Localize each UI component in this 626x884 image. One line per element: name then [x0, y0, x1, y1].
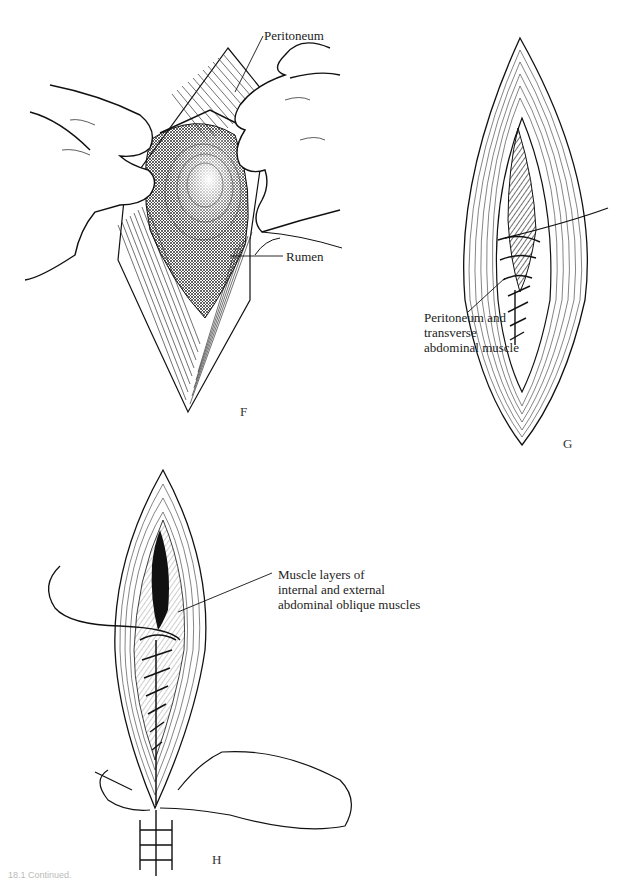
panel-letter-g: G [563, 436, 572, 452]
label-line: internal and external [278, 582, 420, 597]
label-line: Peritoneum and [424, 310, 519, 325]
label-line: Muscle layers of [278, 567, 420, 582]
label-line: transverse [424, 325, 519, 340]
label-peritoneum-transverse: Peritoneum and transverse abdominal musc… [424, 310, 519, 355]
panel-f-drawing [25, 36, 342, 412]
label-line: abdominal oblique muscles [278, 597, 420, 612]
panel-letter-h: H [212, 852, 221, 868]
panel-h-drawing [49, 470, 352, 876]
label-oblique-muscles: Muscle layers of internal and external a… [278, 567, 420, 612]
panel-letter-f: F [240, 404, 247, 420]
panel-g-drawing [464, 38, 608, 445]
label-rumen: Rumen [286, 249, 324, 264]
surgical-illustration [0, 0, 626, 884]
label-peritoneum: Peritoneum [264, 28, 324, 43]
label-line: abdominal muscle [424, 340, 519, 355]
figure-caption: 18.1 Continued. [8, 870, 72, 880]
